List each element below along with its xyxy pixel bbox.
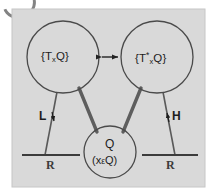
- label-membership-close: Q): [105, 154, 117, 166]
- label-hamiltonian: H: [172, 110, 181, 122]
- label-cotangent-space: {T*xQ}: [135, 51, 166, 65]
- label-lagrangian: L: [39, 110, 46, 122]
- label-tangent-space: {TxQ}: [41, 51, 69, 64]
- label-tangent-prefix: {T: [41, 50, 52, 62]
- label-tangent-suffix: Q}: [56, 50, 69, 62]
- label-baseline-left-r: R: [46, 159, 55, 171]
- figure-root: {TxQ} {T*xQ} Q (xεQ) L H R R: [0, 0, 217, 188]
- label-cotangent-suffix: Q}: [153, 52, 166, 64]
- label-configuration-q: Q: [105, 138, 114, 150]
- label-baseline-right-r: R: [166, 159, 175, 171]
- label-membership-open: (x: [92, 154, 101, 166]
- label-cotangent-prefix: {T: [135, 52, 146, 64]
- label-configuration-membership: (xεQ): [92, 155, 117, 166]
